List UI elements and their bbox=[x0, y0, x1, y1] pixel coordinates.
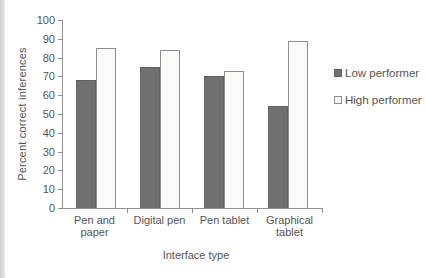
y-tick-label: 10 bbox=[25, 184, 55, 195]
bar-low-performer-pen-tablet bbox=[204, 76, 224, 208]
legend-label: Low performer bbox=[345, 67, 419, 79]
legend-item-high-performer: High performer bbox=[334, 94, 422, 121]
bar-chart-figure: Percent correct inferences 0102030405060… bbox=[0, 0, 426, 278]
y-tick bbox=[58, 39, 62, 40]
x-tick bbox=[257, 208, 258, 213]
y-tick-label: 20 bbox=[25, 165, 55, 176]
y-tick-label: 100 bbox=[25, 15, 55, 26]
y-tick bbox=[58, 133, 62, 134]
x-tick bbox=[322, 208, 323, 213]
bar-high-performer-pen-tablet bbox=[224, 71, 244, 208]
page-scan-edge bbox=[0, 0, 5, 278]
y-tick-label: 70 bbox=[25, 71, 55, 82]
bar-low-performer-digital-pen bbox=[140, 67, 160, 208]
legend-swatch-high-performer bbox=[334, 96, 342, 104]
x-tick bbox=[127, 208, 128, 213]
y-tick bbox=[58, 208, 62, 209]
y-tick bbox=[58, 170, 62, 171]
y-tick-label: 40 bbox=[25, 128, 55, 139]
x-category-label-pen-and-paper: Pen andpaper bbox=[60, 214, 130, 238]
y-tick bbox=[58, 95, 62, 96]
y-tick bbox=[58, 76, 62, 77]
legend-item-low-performer: Low performer bbox=[334, 67, 422, 94]
legend-swatch-low-performer bbox=[334, 69, 342, 77]
y-tick bbox=[58, 114, 62, 115]
bar-high-performer-pen-and-paper bbox=[96, 48, 116, 208]
y-tick bbox=[58, 20, 62, 21]
bar-low-performer-pen-and-paper bbox=[76, 80, 96, 208]
bar-low-performer-graphical-tablet bbox=[268, 106, 288, 208]
y-tick-label: 80 bbox=[25, 53, 55, 64]
x-category-label-digital-pen: Digital pen bbox=[125, 214, 195, 226]
y-tick bbox=[58, 189, 62, 190]
y-tick-label: 50 bbox=[25, 109, 55, 120]
y-tick-label: 60 bbox=[25, 90, 55, 101]
x-axis-title: Interface type bbox=[126, 249, 266, 261]
y-tick-label: 90 bbox=[25, 34, 55, 45]
chart-legend: Low performerHigh performer bbox=[334, 67, 422, 121]
x-category-label-graphical-tablet: Graphicaltablet bbox=[255, 214, 325, 238]
bar-high-performer-digital-pen bbox=[160, 50, 180, 208]
x-category-label-pen-tablet: Pen tablet bbox=[190, 214, 260, 226]
y-tick-label: 30 bbox=[25, 147, 55, 158]
legend-label: High performer bbox=[345, 94, 422, 106]
y-tick bbox=[58, 152, 62, 153]
y-tick-label: 0 bbox=[25, 203, 55, 214]
y-axis-line bbox=[62, 20, 63, 209]
y-tick bbox=[58, 58, 62, 59]
bar-high-performer-graphical-tablet bbox=[288, 41, 308, 208]
x-tick bbox=[192, 208, 193, 213]
